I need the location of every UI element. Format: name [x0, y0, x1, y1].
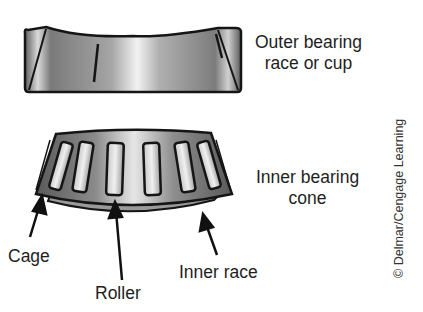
inner-bearing-cone: [36, 130, 232, 212]
cage-arrow: [30, 196, 46, 237]
roller-label: Roller: [95, 283, 141, 304]
cage-label: Cage: [8, 246, 50, 267]
copyright-credit: © Delmar/Cengage Learning: [392, 119, 406, 278]
outer-race-cup: [25, 27, 241, 92]
outer-race-label: Outer bearing race or cup: [255, 32, 362, 74]
roller-arrow: [109, 202, 122, 280]
inner-race-label: Inner race: [179, 262, 258, 283]
inner-race-arrow: [200, 214, 217, 255]
inner-cone-label: Inner bearing cone: [256, 167, 359, 209]
